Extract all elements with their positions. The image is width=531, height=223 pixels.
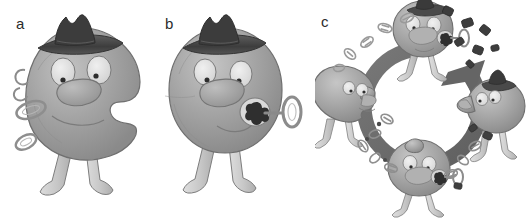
panel-a-illustration xyxy=(0,0,170,223)
detached-ring-small xyxy=(13,131,39,153)
hat-icon xyxy=(183,15,266,54)
panel-b-illustration xyxy=(155,0,320,223)
figure-root: a xyxy=(0,0,531,223)
panel-c: c xyxy=(315,0,531,223)
panel-c-illustration xyxy=(315,0,531,223)
panel-a: a xyxy=(0,0,170,223)
hat-icon xyxy=(38,15,123,54)
panel-b: b xyxy=(155,0,320,223)
